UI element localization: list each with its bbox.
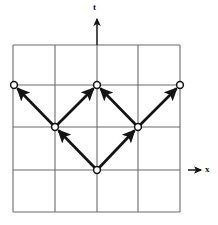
lattice-arrow [55, 89, 94, 128]
lattice-node [177, 82, 184, 89]
lattice-arrow [138, 89, 177, 128]
t-axis-label: t [93, 3, 96, 12]
lattice-diagram-canvas [0, 0, 218, 225]
lattice-node [52, 124, 59, 131]
grid-lines [13, 45, 180, 212]
lattice-arrow [97, 131, 135, 171]
lattice-node [94, 167, 101, 174]
lattice-node [94, 82, 101, 89]
lattice-arrow [59, 131, 98, 171]
lattice-arrow [101, 89, 139, 128]
lattice-node [11, 82, 18, 89]
x-axis-label: x [205, 165, 210, 174]
lattice-diagram-figure: t x [0, 0, 218, 225]
lattice-node [135, 124, 142, 131]
lattice-arrow [18, 89, 56, 128]
